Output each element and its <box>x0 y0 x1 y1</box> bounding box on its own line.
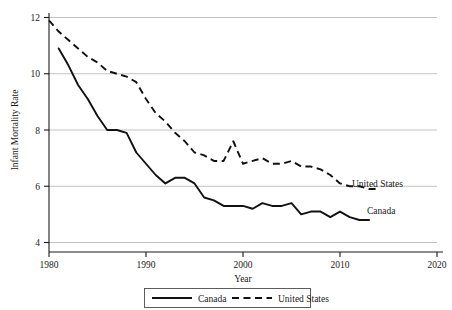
inline-label-canada: Canada <box>367 206 396 216</box>
y-tick-label-12: 12 <box>31 13 41 23</box>
chart-figure: 12 10 8 6 4 Infant Mortality Rate 1980 1… <box>0 0 452 310</box>
y-tick-label-6: 6 <box>35 182 40 192</box>
x-axis-title: Year <box>234 274 252 284</box>
series-line-united-states <box>49 20 379 189</box>
legend: Canada United States <box>145 289 330 308</box>
y-axis-title: Infant Mortality Rate <box>10 90 20 171</box>
infant-mortality-line-chart: 12 10 8 6 4 Infant Mortality Rate 1980 1… <box>0 0 452 310</box>
x-tick-label-2000: 2000 <box>234 260 253 270</box>
x-axis: 1980 1990 2000 2010 2020 Year <box>40 252 447 284</box>
inline-label-united-states: United States <box>352 179 403 189</box>
inline-series-labels: United States Canada <box>352 179 403 216</box>
legend-label-canada: Canada <box>198 294 227 304</box>
y-tick-label-10: 10 <box>31 69 41 79</box>
y-tick-label-4: 4 <box>35 238 40 248</box>
x-tick-label-1980: 1980 <box>40 260 59 270</box>
y-axis: 12 10 8 6 4 Infant Mortality Rate <box>10 13 49 252</box>
legend-label-united-states: United States <box>278 294 329 304</box>
y-tick-label-8: 8 <box>35 126 40 136</box>
series-lines <box>49 20 379 220</box>
x-tick-label-2020: 2020 <box>428 260 447 270</box>
x-tick-label-1990: 1990 <box>137 260 156 270</box>
x-tick-label-2010: 2010 <box>331 260 350 270</box>
series-line-canada <box>59 48 369 220</box>
